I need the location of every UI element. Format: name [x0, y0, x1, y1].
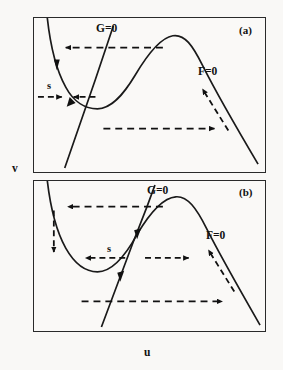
fixed-point-label-a: s — [47, 81, 51, 92]
fixed-point-label-b: s — [107, 244, 111, 255]
panel-tag-b: (b) — [239, 187, 252, 198]
f-nullcline-curve-a — [47, 18, 258, 164]
flow-arrowhead-down-a — [54, 59, 60, 70]
g-nullcline-label-b: G=0 — [147, 185, 168, 197]
panel-a: G=0 F=0 s (a) — [33, 17, 266, 173]
g-nullcline-label-a: G=0 — [96, 23, 117, 35]
f-nullcline-curve-b — [47, 181, 260, 325]
phase-plane-figure: G=0 F=0 s (a) — [0, 0, 283, 370]
y-axis-label: v — [12, 163, 18, 175]
flow-arrow-diagonal-a — [203, 89, 229, 130]
panel-tag-a: (a) — [239, 25, 252, 36]
panel-b: G=0 F=0 s (b) — [33, 180, 266, 332]
f-nullcline-label-b: F=0 — [206, 230, 225, 242]
panel-a-plot — [34, 18, 265, 172]
x-axis-label: u — [144, 347, 150, 359]
panel-b-plot — [34, 181, 265, 331]
f-nullcline-label-a: F=0 — [198, 66, 217, 78]
